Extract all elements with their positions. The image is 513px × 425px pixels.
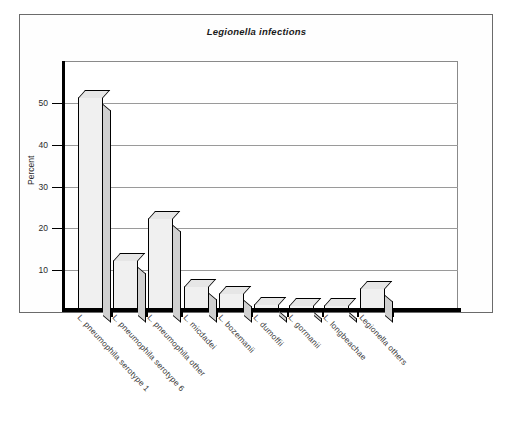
- ytick-label-20: 20: [39, 223, 48, 233]
- ytick-30: [52, 187, 62, 188]
- bar-6[interactable]: [289, 305, 314, 309]
- bar-side-2: [173, 225, 181, 322]
- x-axis-label-2: L. pneumophila other: [146, 313, 208, 378]
- gridline-50: [65, 103, 458, 104]
- plot-area: 50 40 30 20 10: [62, 61, 458, 312]
- x-axis-label-1: L. pneumophila serotype 6: [111, 313, 187, 393]
- bar-4[interactable]: [219, 293, 244, 309]
- ytick-label-10: 10: [39, 265, 48, 275]
- bar-face-0: [78, 97, 103, 309]
- bar-5[interactable]: [254, 304, 279, 309]
- gridline-20: [65, 228, 458, 229]
- y-axis-title: Percent: [26, 156, 36, 185]
- bar-face-3: [184, 286, 209, 309]
- ytick-label-40: 40: [39, 140, 48, 150]
- chart-title: Legionella infections: [0, 26, 513, 37]
- x-axis-label-5: L. dumoffii: [251, 313, 285, 348]
- bar-face-4: [219, 293, 244, 309]
- ytick-label-50: 50: [39, 98, 48, 108]
- ytick-20: [52, 228, 62, 229]
- x-axis-labels: L. pneumophila serotype 1L. pneumophila …: [62, 313, 513, 425]
- bar-2[interactable]: [148, 218, 173, 309]
- bar-face-2: [148, 218, 173, 309]
- bar-face-8: [360, 288, 385, 309]
- y-axis-line: [62, 61, 65, 312]
- ytick-40: [52, 145, 62, 146]
- ytick-50: [52, 103, 62, 104]
- bar-1[interactable]: [113, 260, 138, 309]
- bar-face-1: [113, 260, 138, 309]
- bar-0[interactable]: [78, 97, 103, 309]
- gridline-30: [65, 187, 458, 188]
- ytick-10: [52, 270, 62, 271]
- ytick-label-30: 30: [39, 182, 48, 192]
- bar-7[interactable]: [324, 305, 349, 309]
- gridline-40: [65, 145, 458, 146]
- bar-side-1: [138, 267, 146, 323]
- bar-8[interactable]: [360, 288, 385, 309]
- bar-side-0: [103, 104, 111, 323]
- bar-3[interactable]: [184, 286, 209, 309]
- x-axis-label-0: L. pneumophila serotype 1: [75, 313, 151, 393]
